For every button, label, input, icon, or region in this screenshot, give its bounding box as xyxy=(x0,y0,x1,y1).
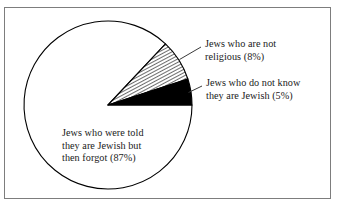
slice-label-told-then-forgot-line2: they are Jewish but xyxy=(62,140,144,153)
pie-chart-figure: Jews who are not religious (8%) Jews who… xyxy=(0,0,339,211)
slice-label-do-not-know: Jews who do not know they are Jewish (5%… xyxy=(206,77,300,102)
slice-label-told-then-forgot: Jews who were told they are Jewish but t… xyxy=(62,127,144,165)
leader-line-hatched xyxy=(180,47,202,60)
slice-label-told-then-forgot-line3: then forgot (87%) xyxy=(62,152,144,165)
slice-label-not-religious-line1: Jews who are not xyxy=(205,38,276,51)
pie-chart-graphic xyxy=(0,0,339,211)
slice-label-told-then-forgot-line1: Jews who were told xyxy=(62,127,144,140)
slice-label-not-religious: Jews who are not religious (8%) xyxy=(205,38,276,63)
slice-label-not-religious-line2: religious (8%) xyxy=(205,51,276,64)
slice-label-do-not-know-line1: Jews who do not know xyxy=(206,77,300,90)
slice-label-do-not-know-line2: they are Jewish (5%) xyxy=(206,90,300,103)
